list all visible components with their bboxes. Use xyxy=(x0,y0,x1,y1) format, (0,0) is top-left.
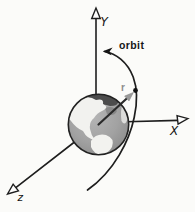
z-axis xyxy=(5,139,79,198)
y-axis-label: Y xyxy=(101,15,110,29)
orbit-label: orbit xyxy=(119,39,144,51)
radius-label: r xyxy=(121,82,125,93)
orbit-point-dot xyxy=(133,88,138,93)
earth-orbit-diagram: Y X z orbit r xyxy=(0,0,195,212)
z-axis-label: z xyxy=(17,191,24,203)
y-axis-arrowhead-icon xyxy=(92,8,101,19)
y-axis xyxy=(92,8,101,96)
diagram-canvas: Y X z orbit r xyxy=(0,0,195,212)
z-axis-line xyxy=(16,139,80,188)
earth-globe xyxy=(67,91,129,155)
x-axis-arrowhead-icon xyxy=(177,114,188,124)
x-axis-label: X xyxy=(169,124,179,138)
